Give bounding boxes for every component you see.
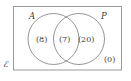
venn-diagram-figure: A P (8) (7) (20) (0) ℰ xyxy=(0,0,131,81)
universal-set-symbol: ℰ xyxy=(3,61,8,69)
region-count-outside: (0) xyxy=(104,56,115,64)
set-label-p: P xyxy=(101,12,107,21)
set-label-a: A xyxy=(29,12,35,21)
region-count-intersection: (7) xyxy=(59,36,70,44)
region-count-p-only: (20) xyxy=(78,36,94,44)
region-count-a-only: (8) xyxy=(36,36,47,44)
